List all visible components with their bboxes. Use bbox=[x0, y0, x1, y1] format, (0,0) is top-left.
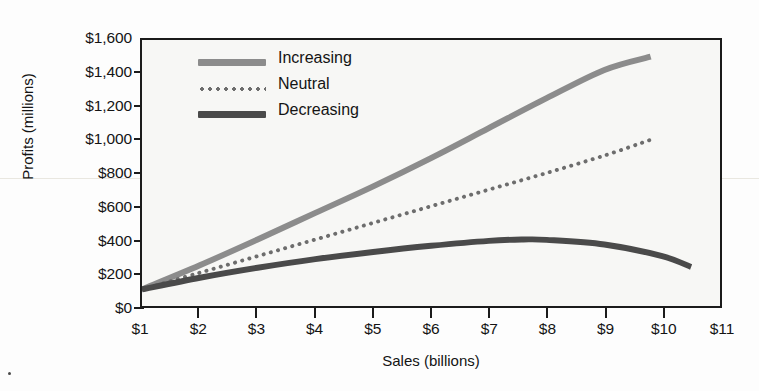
x-axis-tick-label: $1 bbox=[131, 320, 148, 338]
x-axis-tick-mark bbox=[372, 308, 374, 318]
series-line-decreasing bbox=[142, 239, 691, 289]
legend-item: Neutral bbox=[198, 76, 428, 102]
x-axis-tick-mark bbox=[605, 308, 607, 318]
x-axis-tick-label: $10 bbox=[651, 320, 677, 338]
y-axis-tick-label: $800 bbox=[98, 164, 132, 182]
y-axis-tick-label: $400 bbox=[98, 232, 132, 250]
y-axis-tick-labels: $0$200$400$600$800$1,000$1,200$1,400$1,6… bbox=[48, 24, 132, 324]
plot-area: Increasing Neutral Decreasing bbox=[140, 38, 722, 308]
legend-label-increasing: Increasing bbox=[278, 49, 352, 67]
legend-swatch-decreasing bbox=[198, 111, 266, 118]
y-axis-tick-label: $1,600 bbox=[85, 29, 132, 47]
x-axis-tick-label: $7 bbox=[481, 320, 498, 338]
x-axis-tick-label: $4 bbox=[306, 320, 323, 338]
y-axis-tick-label: $1,000 bbox=[85, 130, 132, 148]
legend-item: Decreasing bbox=[198, 102, 428, 128]
x-axis-tick-marks bbox=[140, 308, 724, 320]
legend-swatch-neutral bbox=[198, 87, 266, 91]
legend-swatch-increasing bbox=[198, 59, 266, 66]
legend-item: Increasing bbox=[198, 50, 428, 76]
x-axis-tick-mark bbox=[430, 308, 432, 318]
legend-label-neutral: Neutral bbox=[278, 75, 330, 93]
x-axis-tick-mark bbox=[197, 308, 199, 318]
y-axis-tick-label: $200 bbox=[98, 265, 132, 283]
x-axis-tick-labels: $1$2$3$4$5$6$7$8$9$10$11 bbox=[100, 320, 759, 344]
x-axis-tick-label: $11 bbox=[710, 320, 734, 338]
x-axis-tick-mark bbox=[663, 308, 665, 318]
series-line-neutral bbox=[142, 140, 651, 290]
x-axis-tick-label: $9 bbox=[597, 320, 614, 338]
y-axis-tick-label: $1,200 bbox=[85, 97, 132, 115]
scan-speck bbox=[8, 372, 11, 375]
x-axis-tick-label: $6 bbox=[422, 320, 439, 338]
x-axis-tick-label: $5 bbox=[364, 320, 381, 338]
x-axis-tick-label: $8 bbox=[539, 320, 556, 338]
y-axis-tick-label: $600 bbox=[98, 198, 132, 216]
legend: Increasing Neutral Decreasing bbox=[198, 50, 428, 128]
chart-screenshot: Profits (millions) $0$200$400$600$800$1,… bbox=[0, 0, 759, 391]
x-axis-tick-mark bbox=[488, 308, 490, 318]
x-axis-tick-label: $3 bbox=[248, 320, 265, 338]
x-axis-tick-mark bbox=[546, 308, 548, 318]
x-axis-tick-mark bbox=[255, 308, 257, 318]
y-axis-tick-label: $1,400 bbox=[85, 63, 132, 81]
y-axis-tick-label: $0 bbox=[115, 299, 132, 317]
x-axis-tick-label: $2 bbox=[190, 320, 207, 338]
x-axis-title: Sales (billions) bbox=[140, 352, 722, 369]
x-axis-tick-mark bbox=[314, 308, 316, 318]
y-axis-title: Profits (millions) bbox=[19, 52, 36, 202]
legend-label-decreasing: Decreasing bbox=[278, 101, 359, 119]
